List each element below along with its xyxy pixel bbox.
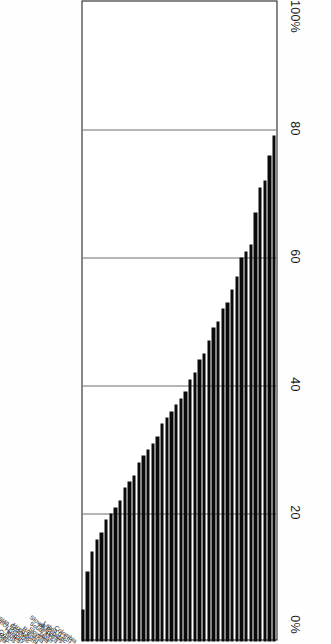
bar bbox=[146, 449, 149, 641]
bar bbox=[183, 391, 186, 641]
bar bbox=[104, 519, 107, 641]
bar bbox=[155, 436, 158, 641]
bar bbox=[202, 353, 205, 641]
bar bbox=[160, 423, 163, 641]
bar-slot bbox=[173, 1, 178, 639]
bar bbox=[95, 539, 98, 641]
bar bbox=[221, 308, 224, 641]
bar-slot bbox=[206, 1, 211, 639]
plot-area bbox=[81, 0, 277, 640]
bar bbox=[90, 551, 93, 641]
bar-slot bbox=[80, 1, 85, 639]
bar-slot bbox=[197, 1, 202, 639]
bar bbox=[179, 398, 182, 641]
bar-slot bbox=[141, 1, 146, 639]
bar bbox=[193, 372, 196, 641]
axis-tick-label: 20 bbox=[287, 505, 301, 519]
bar-slot bbox=[150, 1, 155, 639]
bar bbox=[253, 212, 256, 641]
bar bbox=[169, 411, 172, 641]
bar bbox=[165, 417, 168, 641]
axis-tick-label: 60 bbox=[287, 249, 301, 263]
bar-slot bbox=[155, 1, 160, 639]
axis-tick-label: 0% bbox=[287, 615, 301, 633]
bar-slot bbox=[215, 1, 220, 639]
bar bbox=[188, 379, 191, 641]
bar-slot bbox=[183, 1, 188, 639]
bar bbox=[174, 404, 177, 641]
bar bbox=[216, 321, 219, 641]
bar bbox=[118, 500, 121, 641]
bar bbox=[244, 251, 247, 641]
bar bbox=[137, 462, 140, 641]
bar-slot bbox=[127, 1, 132, 639]
bar bbox=[85, 571, 88, 641]
bar-slot bbox=[113, 1, 118, 639]
bar bbox=[123, 487, 126, 641]
bar bbox=[132, 475, 135, 641]
bar bbox=[249, 244, 252, 641]
bar-slot bbox=[117, 1, 122, 639]
bar-slot bbox=[164, 1, 169, 639]
bar-slot bbox=[99, 1, 104, 639]
bar-slot bbox=[225, 1, 230, 639]
bar-slot bbox=[267, 1, 272, 639]
bar-slot bbox=[211, 1, 216, 639]
bar-slot bbox=[257, 1, 262, 639]
axis-tick-label: 40 bbox=[287, 377, 301, 391]
bar bbox=[99, 532, 102, 641]
bar bbox=[235, 276, 238, 641]
bar bbox=[109, 513, 112, 641]
bar bbox=[113, 507, 116, 641]
bar-slot bbox=[220, 1, 225, 639]
bar bbox=[127, 481, 130, 641]
bar-slot bbox=[89, 1, 94, 639]
bar-slot bbox=[159, 1, 164, 639]
category-axis: ColombiaLatvia (LSS)Slovak RepublicPhili… bbox=[0, 0, 80, 640]
bar bbox=[230, 289, 233, 641]
bar-slot bbox=[239, 1, 244, 639]
bar-slot bbox=[145, 1, 150, 639]
axis-tick-label: 100% bbox=[287, 0, 301, 32]
bar-slot bbox=[108, 1, 113, 639]
bar bbox=[258, 187, 261, 641]
bar bbox=[267, 155, 270, 641]
bar-slot bbox=[178, 1, 183, 639]
bar-slot bbox=[262, 1, 267, 639]
bar-series bbox=[82, 1, 276, 639]
bar-slot bbox=[85, 1, 90, 639]
bar bbox=[197, 359, 200, 641]
bar bbox=[239, 257, 242, 641]
axis-tick-label: 80 bbox=[287, 121, 301, 135]
value-axis: 0%20406080100% bbox=[285, 0, 331, 640]
bar-slot bbox=[243, 1, 248, 639]
bar-slot bbox=[103, 1, 108, 639]
bar bbox=[207, 340, 210, 641]
bar bbox=[151, 443, 154, 641]
bar bbox=[81, 609, 84, 641]
bar bbox=[272, 135, 275, 641]
bar bbox=[141, 455, 144, 641]
bar-slot bbox=[131, 1, 136, 639]
bar-slot bbox=[271, 1, 276, 639]
bar-slot bbox=[248, 1, 253, 639]
bar-slot bbox=[201, 1, 206, 639]
bar-slot bbox=[136, 1, 141, 639]
bar-slot bbox=[187, 1, 192, 639]
bar-slot bbox=[253, 1, 258, 639]
bar bbox=[225, 302, 228, 641]
bar-slot bbox=[229, 1, 234, 639]
bar-slot bbox=[122, 1, 127, 639]
bar bbox=[263, 180, 266, 641]
bar-slot bbox=[94, 1, 99, 639]
bar bbox=[211, 327, 214, 641]
bar-slot bbox=[234, 1, 239, 639]
bar-slot bbox=[192, 1, 197, 639]
bar-slot bbox=[169, 1, 174, 639]
